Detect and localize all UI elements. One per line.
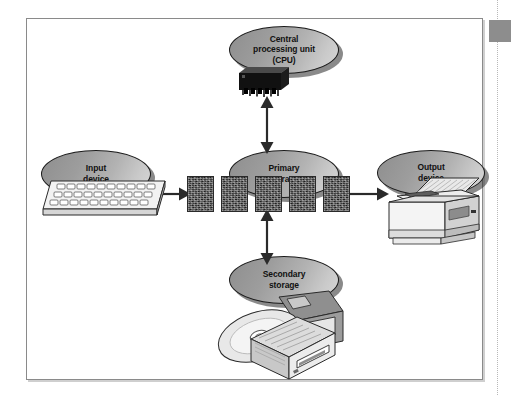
arrow-primary-secondary-double [258, 209, 276, 265]
figure-frame: Central processing unit (CPU) Input devi… [26, 18, 483, 380]
memory-block [255, 176, 282, 212]
memory-block [289, 176, 316, 212]
keyboard-icon [39, 179, 169, 221]
arrow-cpu-primary-double [258, 96, 276, 154]
node-label-cpu: Central processing unit (CPU) [253, 34, 315, 65]
memory-block [187, 176, 214, 212]
disk-drive-icon [213, 283, 357, 387]
printer-icon [383, 174, 487, 258]
margin-gray-tab [489, 20, 511, 42]
memory-block [221, 176, 248, 212]
figure-page: Central processing unit (CPU) Input devi… [0, 0, 511, 395]
microchip-icon [235, 64, 293, 98]
memory-block [323, 176, 350, 212]
margin-dotted-rule [497, 0, 498, 395]
memory-modules-icon [187, 176, 347, 212]
diagram-canvas: Central processing unit (CPU) Input devi… [27, 19, 482, 379]
